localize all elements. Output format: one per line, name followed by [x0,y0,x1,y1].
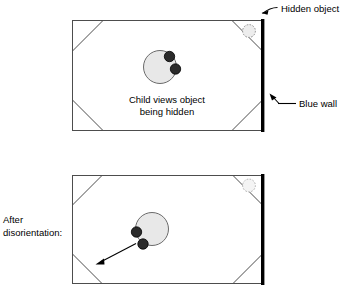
after-disorientation-label-line1: After [3,214,23,225]
hidden-object-annotation: Hidden object [262,3,340,15]
figure-root: Child views object being hidden Hidden o… [0,0,345,290]
blue-wall-annotation: Blue wall [270,94,338,109]
child-head-top [164,51,174,61]
blue-wall-top [261,19,264,132]
top-panel: Child views object being hidden [73,19,265,132]
blue-wall-bottom [261,174,264,285]
blue-wall-label: Blue wall [299,98,337,109]
top-panel-caption-line1: Child views object [129,94,205,105]
after-disorientation-annotation: After disorientation: [3,214,62,238]
top-panel-caption-line2: being hidden [140,106,194,117]
child-shoulder-top [170,64,180,74]
hidden-object-label: Hidden object [281,3,339,14]
hidden-object-bottom [243,179,256,192]
disorientation-diagram: Child views object being hidden Hidden o… [0,0,345,290]
bottom-panel [73,174,265,285]
child-head-bottom [131,227,141,237]
hidden-object-top [243,25,256,38]
after-disorientation-label-line2: disorientation: [3,227,62,238]
child-shoulder-bottom [138,239,148,249]
